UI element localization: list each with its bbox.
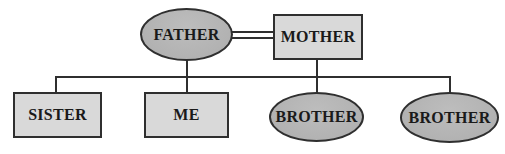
- node-me-label: ME: [173, 106, 199, 124]
- marriage-line-top: [230, 31, 275, 33]
- node-brother-2: BROTHER: [400, 92, 499, 143]
- node-mother: MOTHER: [273, 14, 363, 60]
- node-me: ME: [144, 92, 229, 138]
- node-mother-label: MOTHER: [281, 28, 356, 46]
- marriage-line-bottom: [230, 37, 275, 39]
- node-father-label: FATHER: [153, 26, 219, 44]
- brother2-stub-line: [449, 77, 451, 93]
- sister-stub-line: [55, 77, 57, 93]
- node-brother-2-label: BROTHER: [408, 109, 490, 127]
- node-brother-1: BROTHER: [269, 92, 364, 142]
- node-sister: SISTER: [13, 92, 102, 138]
- sibling-rail-line: [55, 76, 451, 78]
- family-tree-diagram: FATHER MOTHER SISTER ME BROTHER BROTHER: [0, 0, 505, 154]
- node-father: FATHER: [140, 8, 233, 61]
- node-sister-label: SISTER: [28, 106, 87, 124]
- node-brother-1-label: BROTHER: [275, 108, 357, 126]
